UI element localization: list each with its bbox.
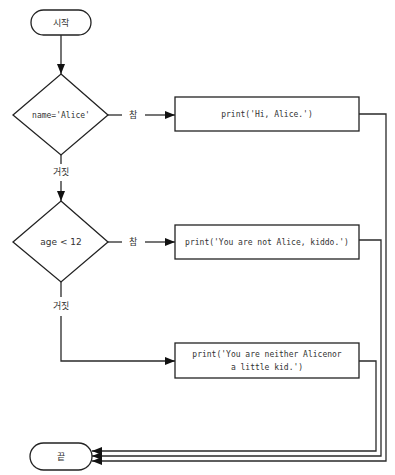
end-terminal: 끝 — [30, 443, 92, 470]
decision-name-alice: name='Alice' — [13, 74, 108, 155]
process-print-neither-label-line1: print('You are neither Alicenor — [192, 350, 341, 359]
process-print-neither-label-line2: a little kid.') — [231, 363, 303, 372]
edge-cond2-false-b — [61, 316, 175, 361]
flowchart-canvas: 시작 name='Alice' 참 print('Hi, Alice.') 거짓… — [0, 0, 395, 475]
start-label: 시작 — [53, 18, 69, 28]
end-label: 끝 — [57, 452, 65, 462]
decision-age-under-12: age < 12 — [13, 201, 108, 282]
decision-name-alice-label: name='Alice' — [32, 111, 90, 120]
edge-label-cond1-false: 거짓 — [53, 167, 69, 177]
edge-print1-end — [92, 114, 386, 461]
process-print-not-alice-kiddo: print('You are not Alice, kiddo.') — [175, 225, 359, 259]
process-print-not-alice-kiddo-label: print('You are not Alice, kiddo.') — [185, 238, 349, 247]
process-print-neither: print('You are neither Alicenor a little… — [175, 343, 359, 378]
edge-label-cond2-false: 거짓 — [53, 301, 69, 311]
process-print-hi-alice: print('Hi, Alice.') — [175, 97, 359, 131]
edge-label-cond1-true: 참 — [129, 110, 137, 120]
decision-age-under-12-label: age < 12 — [40, 237, 81, 247]
process-print-hi-alice-label: print('Hi, Alice.') — [221, 110, 313, 119]
edge-label-cond2-true: 참 — [129, 237, 137, 247]
start-terminal: 시작 — [31, 10, 91, 35]
